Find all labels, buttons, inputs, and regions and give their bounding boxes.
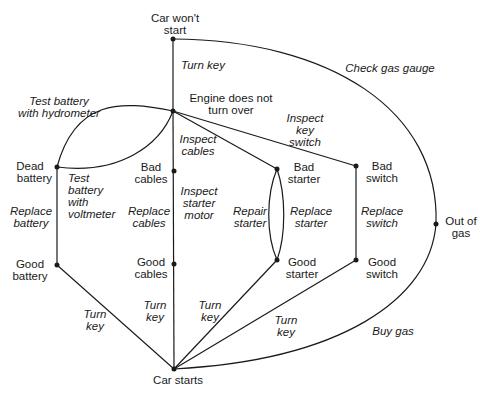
label-line: switch [362,268,402,280]
label-line: key [140,311,170,323]
label-line: Repair [230,205,270,217]
node-dot-wont-start [171,37,176,42]
edge-label-turn-key-starter: Turn key [195,299,225,323]
edge-label-check-gas-gauge: Check gas gauge [340,62,440,74]
label-line: gas [440,227,482,239]
edge-label-repair-starter: Repair starter [230,205,270,229]
label-line: Inspect [176,185,222,197]
node-label-good-starter: Good starter [282,256,322,280]
edge-test-voltmeter [57,111,173,168]
label-line: switch [361,217,403,229]
label-line: Check gas gauge [340,62,440,74]
edge-label-turn-key-cables: Turn key [140,299,170,323]
node-dot-no-turn [171,109,176,114]
label-line: Bad [284,161,324,173]
edge-label-inspect-starter: Inspect starter motor [176,185,222,221]
label-line: battery [68,184,115,196]
edge-label-turn-key-switch: Turn key [271,314,301,338]
label-line: cables [132,173,170,185]
label-line: with hydrometer [14,107,104,119]
label-line: with [68,196,115,208]
edge-label-turn-key-top: Turn key [181,59,225,71]
node-dot-good-cables [172,262,177,267]
node-dot-bad-cables [172,169,177,174]
node-label-good-switch: Good switch [362,256,402,280]
node-label-bad-switch: Bad switch [362,160,402,184]
label-line: battery [8,270,52,282]
label-line: Bad [132,161,170,173]
label-line: starter [290,217,332,229]
label-line: Good [132,256,170,268]
node-dot-good-starter [275,258,280,263]
node-dot-good-battery [55,263,60,268]
node-dot-bad-starter [275,167,280,172]
label-line: Replace [290,205,332,217]
label-line: starter [176,197,222,209]
node-dot-out-of-gas [434,222,439,227]
label-line: Good [282,256,322,268]
label-line: switch [362,172,402,184]
node-label-bad-cables: Bad cables [132,161,170,185]
label-line: Turn [140,299,170,311]
edge-replace-starter [277,169,284,260]
label-line: Turn [195,299,225,311]
label-line: Buy gas [368,325,418,337]
node-dot-bad-switch [354,164,359,169]
label-line: Out of [440,215,482,227]
node-dot-dead-battery [55,165,60,170]
edge-label-replace-cables: Replace cables [127,205,171,229]
edge-label-replace-battery: Replace battery [8,205,54,229]
label-line: Turn key [181,59,225,71]
label-line: starter [230,217,270,229]
node-label-bad-starter: Bad starter [284,161,324,185]
node-dot-car-starts [172,367,177,372]
edge-label-buy-gas: Buy gas [368,325,418,337]
edge-label-replace-starter: Replace starter [290,205,332,229]
label-line: key [283,124,327,136]
label-line: Inspect [174,133,222,145]
label-line: Turn [80,308,110,320]
label-line: key [195,311,225,323]
label-line: cables [174,145,222,157]
label-line: Good [8,258,52,270]
label-line: Engine does not [176,92,286,104]
label-line: starter [284,173,324,185]
label-line: battery [8,217,54,229]
label-line: motor [176,209,222,221]
edge-label-turn-key-battery: Turn key [80,308,110,332]
label-line: cables [127,217,171,229]
node-label-car-starts: Car starts [148,374,208,386]
node-dot-good-switch [354,258,359,263]
label-line: Inspect [283,112,327,124]
label-line: Replace [127,205,171,217]
edge-label-inspect-cables: Inspect cables [174,133,222,157]
label-line: Replace [361,205,403,217]
edge-buy-gas [174,224,436,369]
node-label-good-battery: Good battery [8,258,52,282]
label-line: Car starts [148,374,208,386]
label-line: voltmeter [68,208,115,220]
node-label-good-cables: Good cables [132,256,170,280]
node-label-engine-no-turn: Engine does not turn over [176,92,286,116]
label-line: Replace [8,205,54,217]
edge-label-test-hydrometer: Test battery with hydrometer [14,95,104,119]
label-line: Turn [271,314,301,326]
edge-turn-key-starter [174,260,277,369]
label-line: Car won't [143,12,207,24]
edge-label-replace-switch: Replace switch [361,205,403,229]
edge-label-inspect-switch: Inspect key switch [283,112,327,148]
label-line: Test [68,172,115,184]
node-label-out-of-gas: Out of gas [440,215,482,239]
label-line: starter [282,268,322,280]
label-line: key [271,326,301,338]
label-line: battery [8,172,52,184]
label-line: Dead [8,160,52,172]
label-line: key [80,320,110,332]
label-line: switch [283,136,327,148]
label-line: Bad [362,160,402,172]
node-label-car-wont-start: Car won't start [143,12,207,36]
node-label-dead-battery: Dead battery [8,160,52,184]
label-line: Good [362,256,402,268]
label-line: start [143,24,207,36]
label-line: turn over [176,104,286,116]
